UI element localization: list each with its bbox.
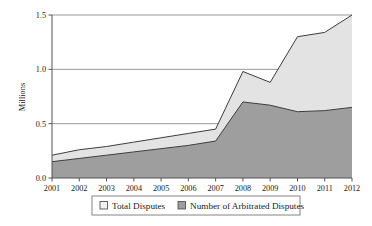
y-tick-label: 1.0	[36, 65, 46, 74]
y-tick-label: 1.5	[36, 11, 46, 20]
x-tick-label: 2010	[289, 184, 305, 193]
legend-swatch-arbitrated-disputes	[178, 202, 186, 210]
y-tick-label: 0.5	[36, 120, 46, 129]
x-tick-label: 2012	[344, 184, 360, 193]
x-tick-label: 2008	[235, 184, 251, 193]
x-tick-label: 2003	[98, 184, 114, 193]
x-tick-label: 2002	[71, 184, 87, 193]
area-chart: 0.00.51.01.5 200120022003200420052006200…	[0, 0, 372, 226]
chart-svg: 0.00.51.01.5 200120022003200420052006200…	[0, 0, 372, 226]
y-axis-title: Millions	[18, 83, 27, 111]
legend-label-arbitrated-disputes: Number of Arbitrated Disputes	[190, 201, 304, 211]
x-tick-label: 2005	[153, 184, 169, 193]
x-tick-label: 2007	[207, 184, 223, 193]
y-tick-label: 0.0	[36, 174, 46, 183]
x-tick-label: 2001	[44, 184, 60, 193]
x-tick-label: 2004	[126, 184, 142, 193]
legend-label-total-disputes: Total Disputes	[112, 201, 166, 211]
legend-swatch-total-disputes	[100, 202, 108, 210]
x-tick-label: 2011	[317, 184, 333, 193]
x-tick-label: 2006	[180, 184, 196, 193]
chart-legend: Total Disputes Number of Arbitrated Disp…	[92, 196, 304, 215]
x-tick-label: 2009	[262, 184, 278, 193]
